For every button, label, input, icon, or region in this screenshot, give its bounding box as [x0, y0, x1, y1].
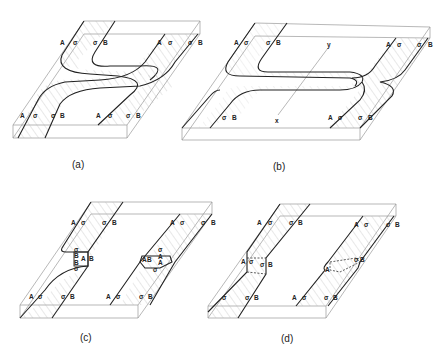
- label-d-tr-sigma1: σ: [364, 221, 369, 228]
- panel-b: y x A σ σ B A σ σ B σ B A σ σ B (b): [182, 23, 433, 172]
- label-a-tl-sigma2: σ: [93, 39, 98, 46]
- label-b-tl-B: B: [276, 39, 281, 46]
- label-c-tr-sigma1: σ: [180, 219, 185, 226]
- label-c-jl-1: B: [74, 252, 79, 259]
- label-c-br-A: A: [106, 293, 111, 300]
- label-b-bl-sigma: σ: [222, 114, 227, 121]
- label-d-tr-sigma2: σ: [386, 221, 391, 228]
- label-b-br-A: A: [328, 114, 333, 121]
- figure-canvas: A σ σ B A σ σ B A σ σ B A σ σ B (a) y x: [0, 0, 441, 360]
- label-d-tl-A: A: [257, 219, 262, 226]
- label-b-br-B: B: [368, 114, 373, 121]
- panel-c: A σ σ B A σ σ B σ B A B B σ σ A A B A σ …: [20, 202, 216, 343]
- label-b-tl-sigma1: σ: [244, 39, 249, 46]
- caption-a: (a): [72, 159, 84, 170]
- caption-c: (c): [80, 332, 92, 343]
- label-b-br-sigma2: σ: [358, 114, 363, 121]
- label-d-br-B: B: [333, 294, 338, 301]
- label-a-bl-sigma2: σ: [51, 112, 56, 119]
- label-d-tr-B: B: [395, 221, 400, 228]
- panel-d: A σ σ B A σ σ B A σ σ B A σ B σ σ B A σ …: [208, 204, 400, 344]
- label-d-tl-B: B: [298, 219, 303, 226]
- label-a-br-sigma1: σ: [108, 112, 113, 119]
- caption-d: (d): [281, 333, 293, 344]
- label-a-tl-sigma1: σ: [73, 39, 78, 46]
- label-c-jl-2: A: [81, 255, 86, 262]
- label-d-bl-B: B: [254, 294, 259, 301]
- label-c-jl-5: σ: [74, 265, 79, 272]
- label-b-tr-A: A: [386, 41, 391, 48]
- label-c-br-sigma2: σ: [139, 293, 144, 300]
- label-b-tr-sigma1: σ: [397, 41, 402, 48]
- label-d-tr-A: A: [354, 221, 359, 228]
- label-d-jl-sigma2: σ: [260, 261, 265, 268]
- label-c-jl-3: B: [89, 255, 94, 262]
- label-c-tl-sigma2: σ: [102, 219, 107, 226]
- label-d-jl-sigma1: σ: [249, 258, 254, 265]
- label-a-tr-sigma1: σ: [168, 39, 173, 46]
- caption-b: (b): [273, 161, 285, 172]
- label-d-bl-sigma2: σ: [245, 294, 250, 301]
- label-b-br-sigma1: σ: [338, 114, 343, 121]
- label-c-bl-A: A: [29, 293, 34, 300]
- label-c-tl-sigma1: σ: [81, 219, 86, 226]
- label-c-jr-5: σ: [153, 266, 158, 273]
- label-d-jl-B: B: [268, 261, 273, 268]
- label-a-bl-sigma1: σ: [33, 112, 38, 119]
- label-d-br-sigma1: σ: [302, 294, 307, 301]
- label-a-br-sigma2: σ: [126, 112, 131, 119]
- label-d-jr-sigma: σ: [354, 256, 359, 263]
- label-a-tl-A: A: [60, 39, 65, 46]
- label-b-tl-sigma2: σ: [266, 39, 271, 46]
- label-d-jr-A: A: [325, 266, 330, 273]
- label-c-tl-B: B: [112, 219, 117, 226]
- label-b-bl-B: B: [232, 114, 237, 121]
- label-a-tr-sigma2: σ: [188, 39, 193, 46]
- label-d-jl-A: A: [241, 258, 246, 265]
- label-c-tr-B: B: [211, 219, 216, 226]
- label-a-tr-B: B: [198, 39, 203, 46]
- label-d-br-A: A: [292, 294, 297, 301]
- label-c-br-sigma1: σ: [116, 293, 121, 300]
- label-b-tr-B: B: [428, 41, 433, 48]
- label-c-jr-2: A: [158, 259, 163, 266]
- axis-label-y: y: [327, 41, 331, 49]
- label-a-bl-A: A: [20, 112, 25, 119]
- label-d-tl-sigma1: σ: [268, 219, 273, 226]
- label-a-br-A: A: [96, 112, 101, 119]
- label-a-tr-A: A: [157, 39, 162, 46]
- label-c-jr-4: A: [142, 256, 147, 263]
- label-a-bl-B: B: [60, 112, 65, 119]
- label-b-tr-sigma2: σ: [417, 41, 422, 48]
- label-c-tr-A: A: [170, 219, 175, 226]
- label-a-br-B: B: [136, 112, 141, 119]
- label-c-br-B: B: [148, 293, 153, 300]
- label-c-bl-sigma2: σ: [61, 293, 66, 300]
- label-c-bl-B: B: [70, 293, 75, 300]
- label-c-jr-3: B: [147, 256, 152, 263]
- label-a-tl-B: B: [103, 39, 108, 46]
- label-d-jr-B: B: [360, 256, 365, 263]
- axis-label-x: x: [275, 117, 279, 124]
- label-d-bl-sigma1: σ: [222, 294, 227, 301]
- label-d-tl-sigma2: σ: [289, 219, 294, 226]
- label-c-jr-0: σ: [158, 246, 163, 253]
- label-c-bl-sigma1: σ: [38, 293, 43, 300]
- label-c-tr-sigma2: σ: [201, 219, 206, 226]
- panel-a: A σ σ B A σ σ B A σ σ B A σ σ B (a): [13, 21, 203, 170]
- label-b-tl-A: A: [234, 39, 239, 46]
- label-d-br-sigma2: σ: [324, 294, 329, 301]
- label-c-tl-A: A: [71, 219, 76, 226]
